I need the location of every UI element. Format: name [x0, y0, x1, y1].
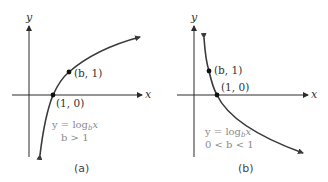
point-b-1 — [207, 69, 212, 74]
x-axis-label: x — [311, 88, 318, 101]
point-label-1-0: (1, 0) — [221, 81, 249, 93]
point-label-1-0: (1, 0) — [56, 97, 84, 109]
logarithm-graphs-figure: x y (b, 1) (1, 0) y = logbx b > 1 (a) x … — [0, 0, 328, 182]
condition: b > 1 — [61, 132, 89, 143]
condition: 0 < b < 1 — [205, 139, 254, 150]
panel-b: x y (b, 1) (1, 0) y = logbx 0 < b < 1 (b… — [177, 11, 318, 175]
equation: y = logbx — [51, 119, 99, 132]
point-1-0 — [51, 93, 56, 98]
caption-a: (a) — [74, 162, 89, 175]
point-label-b-1: (b, 1) — [214, 64, 242, 76]
x-axis-label: x — [145, 88, 152, 101]
equation: y = logbx — [204, 126, 252, 139]
point-label-b-1: (b, 1) — [74, 67, 102, 79]
panel-a: x y (b, 1) (1, 0) y = logbx b > 1 (a) — [12, 11, 152, 175]
point-b-1 — [67, 70, 72, 75]
y-axis-label: y — [25, 11, 33, 24]
caption-b: (b) — [238, 162, 254, 175]
y-axis-label: y — [190, 11, 198, 24]
point-1-0 — [215, 93, 220, 98]
